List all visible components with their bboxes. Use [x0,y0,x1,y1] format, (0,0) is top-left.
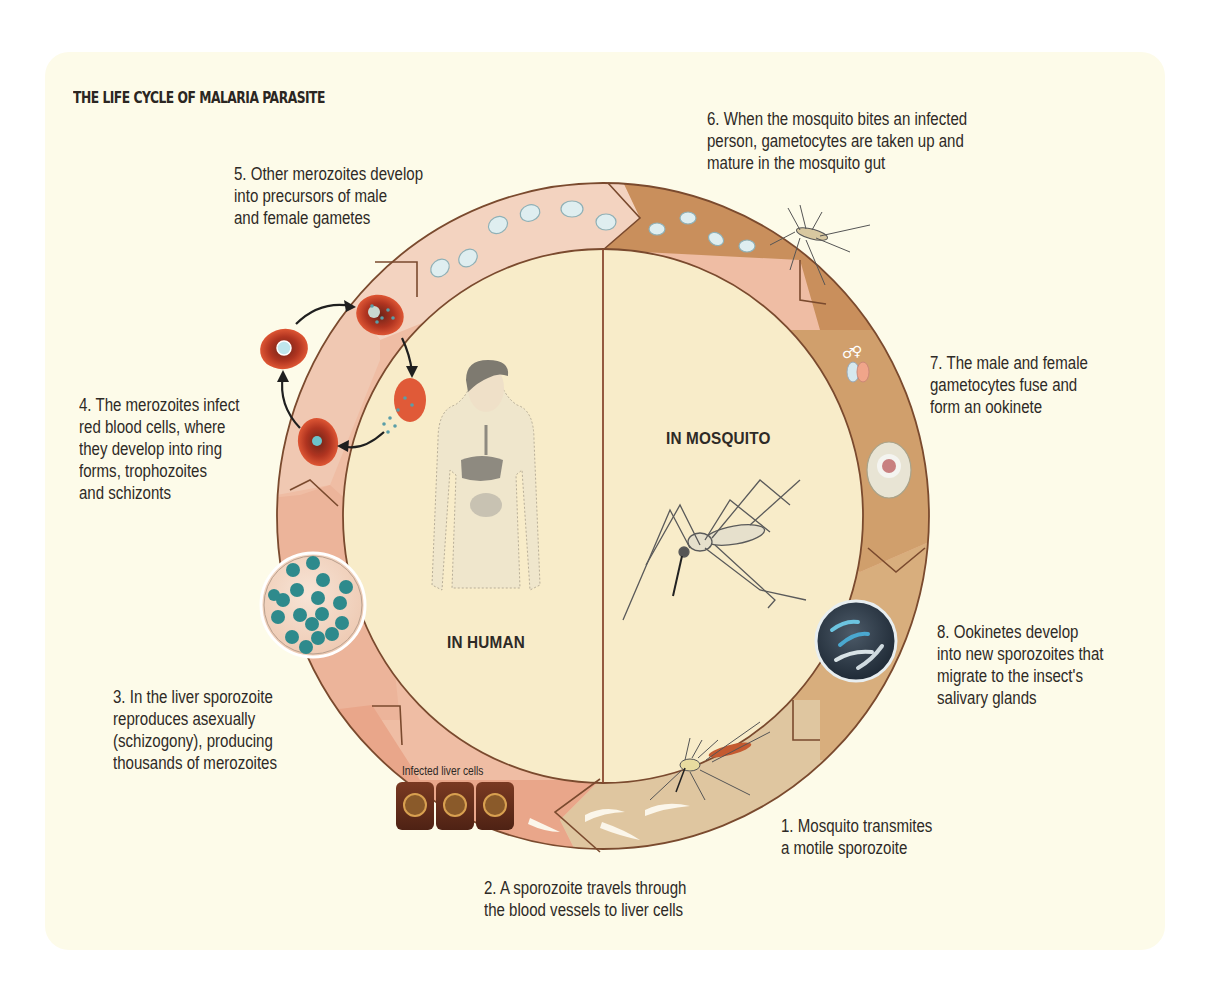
step-4-caption: 4. The merozoites infect red blood cells… [79,394,239,504]
step-8-caption: 8. Ookinetes develop into new sporozoite… [937,621,1103,709]
step-1-caption: 1. Mosquito transmites a motile sporozoi… [781,815,932,859]
step-3-caption: 3. In the liver sporozoite reproduces as… [113,686,277,774]
sporozoites-lens-icon [816,601,896,681]
liver-cell-icon [396,782,514,830]
step-7-caption: 7. The male and female gametocytes fuse … [930,352,1088,418]
merozoite-cluster-icon [261,553,365,657]
step-6-caption: 6. When the mosquito bites an infected p… [707,108,967,174]
zone-label-human: IN HUMAN [447,633,525,653]
female-symbol: ♀ [852,343,862,359]
zone-label-mosquito: IN MOSQUITO [666,429,771,449]
step-5-caption: 5. Other merozoites develop into precurs… [234,163,423,229]
infected-liver-cells-label: Infected liver cells [402,764,483,778]
step-2-caption: 2. A sporozoite travels through the bloo… [484,877,686,921]
ookinete-icon [867,442,911,498]
